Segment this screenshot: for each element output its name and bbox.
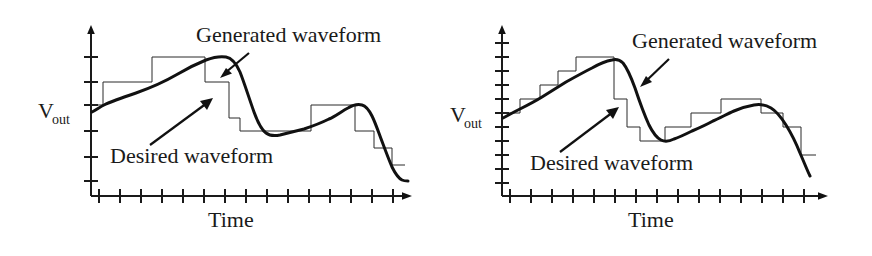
desired-waveform-label-left: Desired waveform <box>110 143 273 168</box>
generated-waveform-label-right: Generated waveform <box>632 28 817 53</box>
x-axis-arrowhead <box>818 192 828 200</box>
x-axis-label-right: Time <box>628 207 674 232</box>
y-axis-arrowhead <box>498 25 506 34</box>
chart-panel-left: Generated waveform Desired waveform V ou… <box>0 0 436 256</box>
desired-waveform-label-right: Desired waveform <box>530 150 693 175</box>
desired-waveform-arrowhead-left <box>200 98 213 110</box>
chart-svg-left: Generated waveform Desired waveform V ou… <box>0 0 436 256</box>
generated-waveform-label-left: Generated waveform <box>196 22 381 47</box>
y-axis-arrowhead <box>87 25 95 34</box>
chart-panel-right: Generated waveform Desired waveform V ou… <box>436 0 872 256</box>
x-axis-label-left: Time <box>208 207 254 232</box>
generated-waveform-leader-left <box>225 53 249 73</box>
figure-root: Generated waveform Desired waveform V ou… <box>0 0 872 256</box>
y-axis-label-sub-right: out <box>464 116 482 131</box>
x-axis-arrowhead <box>402 192 412 200</box>
desired-waveform-leader-right <box>560 112 613 152</box>
annotation-generated-waveform-left: Generated waveform <box>196 22 381 78</box>
generated-waveform-leader-right <box>645 59 669 82</box>
chart-svg-right: Generated waveform Desired waveform V ou… <box>436 0 872 256</box>
x-axis-right <box>502 192 828 200</box>
desired-waveform-leader-left <box>150 103 207 145</box>
y-axis-label-left: V out <box>38 98 70 127</box>
y-axis-label-sub-left: out <box>52 112 70 127</box>
y-axis-right <box>498 25 506 196</box>
annotation-desired-waveform-left: Desired waveform <box>110 98 273 168</box>
annotation-generated-waveform-right: Generated waveform <box>632 28 817 87</box>
x-axis-left <box>91 192 412 200</box>
y-axis-label-right: V out <box>450 102 482 131</box>
desired-waveform-arrowhead-right <box>606 107 619 119</box>
